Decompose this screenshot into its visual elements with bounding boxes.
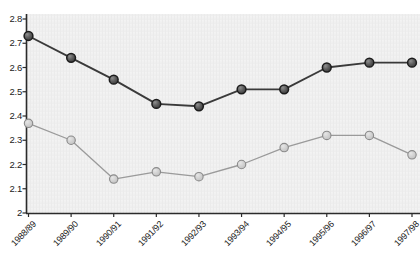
plot-background bbox=[26, 14, 420, 213]
data-point-marker bbox=[67, 136, 75, 144]
y-tick-label: 2 bbox=[0, 207, 22, 218]
data-point-marker bbox=[67, 53, 76, 62]
y-tick-label: 2.3 bbox=[0, 134, 22, 145]
data-point-marker bbox=[408, 151, 416, 159]
data-point-marker bbox=[195, 172, 203, 180]
y-tick-label: 2.8 bbox=[0, 13, 22, 24]
y-tick-label: 2.1 bbox=[0, 183, 22, 194]
data-point-marker bbox=[152, 168, 160, 176]
data-point-marker bbox=[195, 102, 204, 111]
data-point-marker bbox=[237, 160, 245, 168]
data-point-marker bbox=[280, 143, 288, 151]
data-point-marker bbox=[365, 58, 374, 67]
line-chart: 22.12.22.32.42.52.62.72.8 1988/891989/90… bbox=[0, 0, 420, 259]
data-point-marker bbox=[365, 131, 373, 139]
data-point-marker bbox=[408, 58, 417, 67]
data-point-marker bbox=[110, 175, 118, 183]
chart-plot-area bbox=[0, 0, 420, 259]
y-tick-label: 2.4 bbox=[0, 110, 22, 121]
y-tick-label: 2.6 bbox=[0, 62, 22, 73]
data-point-marker bbox=[24, 119, 32, 127]
data-point-marker bbox=[24, 32, 33, 41]
data-point-marker bbox=[322, 63, 331, 72]
data-point-marker bbox=[152, 99, 161, 108]
y-tick-label: 2.5 bbox=[0, 86, 22, 97]
data-point-marker bbox=[237, 85, 246, 94]
y-tick-label: 2.7 bbox=[0, 37, 22, 48]
y-tick-label: 2.2 bbox=[0, 159, 22, 170]
data-point-marker bbox=[109, 75, 118, 84]
data-point-marker bbox=[323, 131, 331, 139]
data-point-marker bbox=[280, 85, 289, 94]
